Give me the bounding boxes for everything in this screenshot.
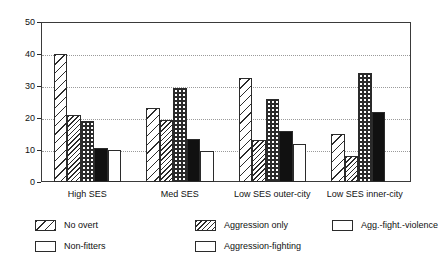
legend-label: Agg.-fight.-violence: [361, 219, 438, 232]
x-axis-label: High SES: [41, 189, 134, 199]
bar: [146, 108, 160, 182]
legend-label: No overt: [64, 219, 98, 232]
legend-swatch-icon: [195, 220, 216, 231]
bar-group: [319, 22, 412, 182]
bar: [81, 121, 95, 182]
bar: [200, 151, 214, 182]
x-axis-label: Low SES outer-city: [226, 189, 319, 199]
legend-label: Aggression-fighting: [224, 240, 301, 253]
bar-group: [134, 22, 227, 182]
y-tick-label: 10: [25, 146, 35, 155]
bar: [252, 140, 266, 182]
bar: [239, 78, 253, 182]
y-axis: 01020304050: [0, 0, 41, 204]
y-tick-label: 40: [25, 50, 35, 59]
legend-swatch-icon: [35, 220, 56, 231]
x-axis-label: Low SES inner-city: [319, 189, 412, 199]
bar: [358, 73, 372, 182]
bar: [187, 139, 201, 182]
legend-swatch-icon: [35, 241, 56, 252]
bar: [266, 99, 280, 182]
bar-group: [41, 22, 134, 182]
bars-layer: [41, 22, 411, 182]
legend-swatch-icon: [195, 241, 216, 252]
legend-label: Non-fitters: [64, 240, 106, 253]
y-tick-label: 20: [25, 114, 35, 123]
bar: [160, 120, 174, 182]
bar: [173, 88, 187, 182]
bar: [293, 144, 307, 182]
bar: [108, 150, 122, 182]
y-tick-label: 0: [30, 178, 35, 187]
bar: [279, 131, 293, 182]
bar: [67, 115, 81, 182]
bar: [54, 54, 68, 182]
y-tick-mark: [37, 182, 41, 183]
bar: [94, 148, 108, 182]
bar-group: [226, 22, 319, 182]
bar: [372, 112, 386, 182]
bar: [345, 156, 359, 182]
legend-swatch-icon: [332, 220, 353, 231]
y-tick-label: 50: [25, 18, 35, 27]
chart-legend: No overtAggression onlyAgg.-fight.-viole…: [35, 219, 415, 263]
x-axis-label: Med SES: [134, 189, 227, 199]
legend-label: Aggression only: [224, 219, 288, 232]
y-tick-label: 30: [25, 82, 35, 91]
bar: [331, 134, 345, 182]
